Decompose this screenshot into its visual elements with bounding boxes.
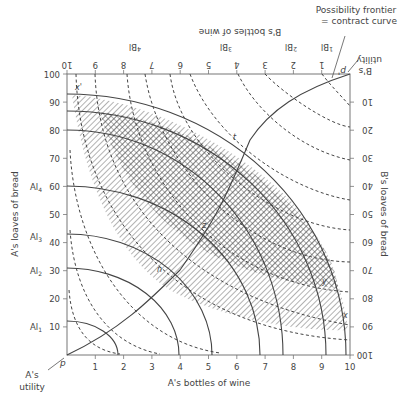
svg-text:50: 50 [49, 210, 60, 220]
a-y-axis-title: A's loaves of bread [10, 171, 20, 257]
svg-text:1: 1 [93, 362, 98, 372]
svg-text:3: 3 [262, 60, 267, 70]
svg-text:10: 10 [49, 322, 60, 332]
svg-text:4: 4 [137, 46, 141, 53]
a-y-axis-ticks [63, 74, 67, 327]
svg-text:10: 10 [362, 97, 373, 107]
b-y-axis-ticks [350, 102, 354, 355]
svg-text:20: 20 [49, 294, 60, 304]
b-x-axis-labels: 1 2 3 4 5 6 7 8 9 10 [62, 60, 325, 70]
a-x-axis-title: A's bottles of wine [168, 378, 251, 388]
svg-text:90: 90 [362, 321, 373, 331]
callout-line-2: = contract curve [321, 16, 397, 26]
a-x-axis-labels: 1 2 3 4 5 6 7 8 9 10 [93, 362, 356, 372]
svg-text:Bl: Bl [129, 42, 137, 52]
a-utility-label-2: utility [19, 382, 45, 392]
svg-text:Al2: Al2 [30, 266, 42, 277]
point-t: t [233, 133, 237, 142]
svg-text:100: 100 [357, 350, 373, 360]
svg-text:70: 70 [362, 265, 373, 275]
point-x: x [342, 311, 348, 320]
svg-text:2: 2 [121, 362, 126, 372]
svg-text:2: 2 [291, 60, 296, 70]
svg-text:50: 50 [362, 209, 373, 219]
svg-text:4: 4 [177, 362, 182, 372]
b-curve-bl2 [265, 74, 350, 127]
b-y-axis-title: B's loaves of bread [379, 171, 389, 257]
svg-text:70: 70 [49, 154, 60, 164]
svg-text:100: 100 [44, 70, 60, 80]
svg-text:1: 1 [319, 60, 324, 70]
svg-text:1: 1 [329, 46, 333, 53]
svg-text:40: 40 [362, 181, 373, 191]
svg-text:30: 30 [49, 266, 60, 276]
svg-text:60: 60 [362, 237, 373, 247]
svg-text:9: 9 [319, 362, 324, 372]
a-y-axis-labels: 10 20 30 40 50 60 70 80 90 100 [44, 70, 60, 332]
al1-label: Al [30, 322, 38, 332]
svg-text:6: 6 [177, 60, 182, 70]
svg-text:Al1: Al1 [30, 322, 42, 333]
svg-text:7: 7 [149, 60, 154, 70]
al2-label: Al [30, 266, 38, 276]
svg-text:60: 60 [49, 182, 60, 192]
svg-text:Al3: Al3 [30, 232, 42, 243]
svg-text:Bl: Bl [220, 42, 228, 52]
a-indifference-labels: Al1 Al2 Al3 Al4 [30, 182, 42, 333]
svg-text:10: 10 [62, 60, 73, 70]
b-x-axis-ticks [67, 70, 322, 74]
svg-text:90: 90 [49, 98, 60, 108]
a-x-axis-ticks [95, 355, 350, 359]
b-origin-label: p' [338, 66, 347, 76]
b-utility-label-1: B's [358, 66, 372, 76]
svg-text:10: 10 [345, 362, 356, 372]
svg-text:7: 7 [262, 362, 267, 372]
al3-label: Al [30, 232, 38, 242]
svg-text:Al4: Al4 [30, 182, 42, 193]
point-n: n [157, 265, 162, 274]
point-y: y [321, 277, 327, 286]
point-x-prime: x' [74, 83, 82, 92]
a-curve-al1 [67, 321, 118, 355]
al4-label: Al [30, 182, 38, 192]
edgeworth-box-diagram: 1 2 3 4 5 6 7 8 9 10 A's bottles of wine… [0, 0, 400, 403]
svg-text:20: 20 [362, 125, 373, 135]
b-x-axis-title: B's bottles of wine [198, 27, 281, 37]
svg-text:3: 3 [149, 362, 154, 372]
a-utility-label-1: A's [25, 370, 39, 380]
svg-text:80: 80 [362, 293, 373, 303]
svg-text:40: 40 [49, 238, 60, 248]
b-utility-label-2: utility [356, 55, 382, 65]
svg-text:2: 2 [293, 46, 297, 53]
callout-line-1: Possibility frontier [316, 5, 397, 15]
svg-text:Bl: Bl [321, 42, 329, 52]
svg-text:5: 5 [206, 60, 211, 70]
a-origin-label: p [59, 358, 66, 368]
svg-text:8: 8 [291, 362, 296, 372]
point-z: z [201, 221, 207, 230]
svg-text:9: 9 [93, 60, 98, 70]
svg-text:6: 6 [234, 362, 239, 372]
b-y-axis-labels: 10 20 30 40 50 60 70 80 90 100 [357, 97, 373, 360]
svg-text:5: 5 [206, 362, 211, 372]
svg-text:4: 4 [234, 60, 239, 70]
b-indifference-labels: Bl4 Bl3 Bl2 Bl1 [129, 42, 333, 53]
svg-text:30: 30 [362, 153, 373, 163]
svg-text:8: 8 [121, 60, 126, 70]
svg-text:80: 80 [49, 126, 60, 136]
svg-text:3: 3 [228, 46, 232, 53]
svg-text:Bl: Bl [285, 42, 293, 52]
